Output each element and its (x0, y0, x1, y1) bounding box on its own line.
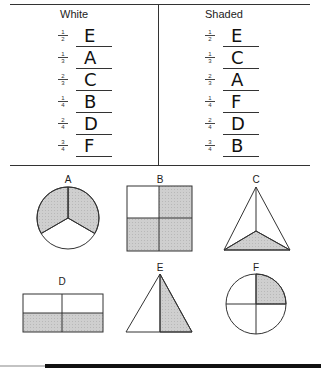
shape-d-rectangle-quarters (23, 294, 103, 332)
fraction-shapes (0, 0, 321, 368)
shape-e-triangle-halves (126, 274, 192, 332)
shape-b-square-quarters (127, 186, 192, 251)
shape-f-circle-quarters (226, 274, 286, 334)
shape-a-circle-thirds (37, 187, 99, 249)
bottom-rule-thick (45, 364, 321, 368)
shape-c-triangle-thirds (224, 187, 290, 250)
bottom-rule-thin (0, 366, 45, 367)
